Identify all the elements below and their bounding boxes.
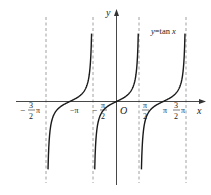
tick-label-pi: π bbox=[163, 106, 167, 115]
svg-text:−: − bbox=[20, 105, 25, 115]
svg-text:π: π bbox=[36, 106, 40, 115]
svg-text:2: 2 bbox=[29, 112, 33, 121]
svg-text:3: 3 bbox=[174, 101, 178, 110]
tick-label-neg-three-half-pi: − 3 2 π bbox=[20, 101, 40, 121]
svg-text:π: π bbox=[181, 106, 185, 115]
y-axis-arrow-icon bbox=[114, 9, 119, 16]
svg-text:π: π bbox=[143, 101, 147, 110]
axes bbox=[16, 12, 203, 185]
x-axis-arrow-icon bbox=[199, 99, 206, 104]
svg-text:2: 2 bbox=[143, 112, 147, 121]
legend-label: y=tan x bbox=[150, 26, 176, 36]
svg-text:π: π bbox=[101, 101, 105, 110]
svg-text:2: 2 bbox=[101, 112, 105, 121]
svg-text:3: 3 bbox=[29, 101, 33, 110]
tick-label-neg-pi: −π bbox=[70, 106, 79, 115]
tick-label-three-half-pi: 3 2 π bbox=[173, 101, 185, 121]
tan-graph: y x O y=tan x − 3 2 π −π − π 2 π 2 π 3 2… bbox=[0, 0, 211, 195]
x-axis-label: x bbox=[196, 105, 202, 116]
tick-label-half-pi: π 2 bbox=[142, 101, 149, 121]
svg-text:−: − bbox=[92, 105, 97, 115]
svg-text:2: 2 bbox=[174, 112, 178, 121]
y-axis-label: y bbox=[105, 7, 111, 18]
origin-label: O bbox=[120, 105, 127, 116]
